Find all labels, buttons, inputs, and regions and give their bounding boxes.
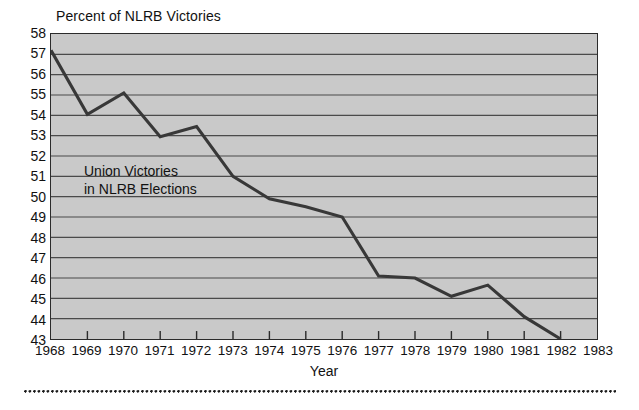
y-tick-label: 51 bbox=[20, 169, 46, 183]
bottom-dotted-rule bbox=[24, 390, 616, 394]
chart-figure: Percent of NLRB Victories 58575655545352… bbox=[0, 0, 639, 410]
y-tick-label: 53 bbox=[20, 128, 46, 142]
y-tick-label: 56 bbox=[20, 67, 46, 81]
x-tick-label: 1982 bbox=[546, 344, 576, 358]
y-tick-label: 58 bbox=[20, 26, 46, 40]
y-tick-label: 52 bbox=[20, 149, 46, 163]
y-axis-tick-labels: 58575655545352515049484746454443 bbox=[16, 33, 46, 340]
x-tick-label: 1980 bbox=[473, 344, 503, 358]
annotation-line-1: Union Victories bbox=[84, 162, 197, 180]
y-tick-label: 54 bbox=[20, 108, 46, 122]
x-tick-label: 1968 bbox=[35, 344, 65, 358]
x-tick-label: 1970 bbox=[108, 344, 138, 358]
x-tick-label: 1971 bbox=[145, 344, 175, 358]
y-tick-label: 44 bbox=[20, 313, 46, 327]
x-tick-label: 1972 bbox=[181, 344, 211, 358]
y-tick-label: 47 bbox=[20, 251, 46, 265]
x-tick-label: 1974 bbox=[254, 344, 284, 358]
x-tick-label: 1973 bbox=[218, 344, 248, 358]
y-tick-label: 55 bbox=[20, 87, 46, 101]
x-tick-label: 1975 bbox=[291, 344, 321, 358]
y-tick-label: 57 bbox=[20, 46, 46, 60]
x-tick-label: 1977 bbox=[364, 344, 394, 358]
y-tick-label: 45 bbox=[20, 292, 46, 306]
x-axis-tick-labels: 1968196919701971197219731974197519761977… bbox=[0, 344, 639, 364]
x-axis-title: Year bbox=[50, 363, 598, 379]
x-tick-label: 1979 bbox=[437, 344, 467, 358]
x-tick-label: 1981 bbox=[510, 344, 540, 358]
x-tick-label: 1969 bbox=[72, 344, 102, 358]
x-tick-label: 1976 bbox=[327, 344, 357, 358]
annotation-line-2: in NLRB Elections bbox=[84, 180, 197, 198]
series-annotation: Union Victories in NLRB Elections bbox=[84, 162, 197, 198]
chart-title: Percent of NLRB Victories bbox=[56, 8, 221, 24]
x-tick-label: 1983 bbox=[583, 344, 613, 358]
y-tick-label: 48 bbox=[20, 231, 46, 245]
y-tick-label: 46 bbox=[20, 272, 46, 286]
y-tick-label: 49 bbox=[20, 210, 46, 224]
y-tick-label: 50 bbox=[20, 190, 46, 204]
x-tick-label: 1978 bbox=[400, 344, 430, 358]
